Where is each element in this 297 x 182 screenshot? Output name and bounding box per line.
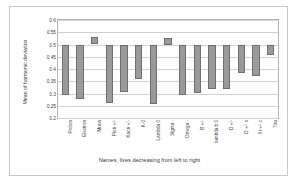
y-tick-label: 0.55 [40, 30, 56, 35]
bar [252, 45, 260, 77]
y-tick-label: 0.3 [40, 91, 56, 96]
bar [223, 45, 231, 90]
bar [76, 45, 84, 100]
bar [179, 45, 187, 95]
y-tick-label: 0.6 [40, 18, 56, 23]
bar [194, 45, 202, 94]
bar [135, 45, 143, 80]
bar [150, 45, 158, 105]
bar [208, 45, 216, 90]
chart-card: Mean of harmonic deviation 0.60.550.50.4… [9, 6, 288, 176]
y-axis-title: Mean of harmonic deviation [22, 24, 32, 120]
bar [267, 45, 275, 56]
plot-area: 0.60.550.50.450.40.350.30.250.2 [57, 19, 279, 119]
x-axis-title: Names, lives decreasing from left to rig… [10, 157, 289, 163]
y-tick-label: 0.25 [40, 103, 56, 108]
gridline [58, 118, 278, 119]
bar [106, 45, 114, 103]
y-tick-label: 0.4 [40, 67, 56, 72]
bar [164, 38, 172, 44]
bar-series [58, 20, 278, 118]
bar [91, 37, 99, 44]
y-tick-label: 0.2 [40, 116, 56, 121]
y-tick-label: 0.45 [40, 54, 56, 59]
bar [120, 45, 128, 92]
bar [238, 45, 246, 74]
y-tick-label: 0.35 [40, 79, 56, 84]
bar [62, 45, 70, 95]
y-tick-label: 0.5 [40, 42, 56, 47]
